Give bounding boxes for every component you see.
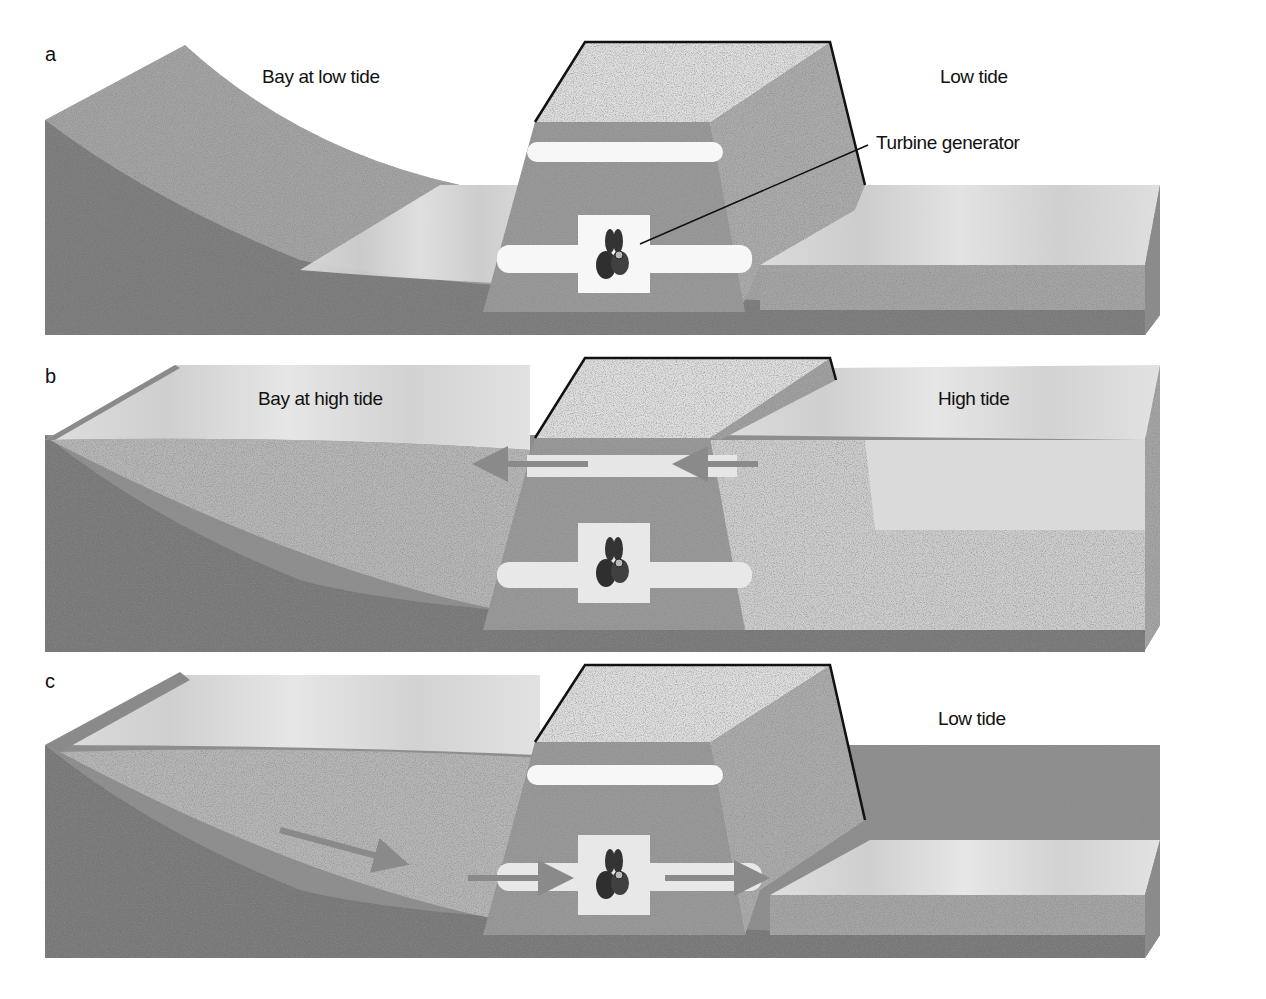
turbine-generator-label: Turbine generator [876,132,1020,154]
bay-label-a: Bay at low tide [262,66,380,88]
panel-b-illustration [0,340,1266,660]
panel-letter-c: c [45,670,55,693]
panel-letter-a: a [45,43,56,66]
panel-c: c Low tide [0,660,1266,999]
sea-label-a: Low tide [940,66,1008,88]
bay-label-b: Bay at high tide [258,388,383,410]
sea-label-c: Low tide [938,708,1006,730]
panel-a-illustration [0,0,1266,340]
panel-letter-b: b [45,365,56,388]
panel-b: b Bay at high tide High tide [0,340,1266,660]
panel-c-illustration [0,660,1266,999]
sea-label-b: High tide [938,388,1009,410]
panel-a: a Bay at low tide Low tide Turbine gener… [0,0,1266,340]
